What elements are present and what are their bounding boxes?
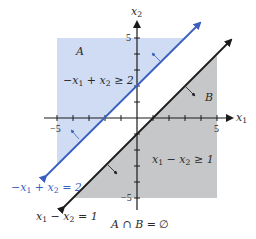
line-b-equation: x1 − x2 = 1 <box>36 211 98 224</box>
x-axis-label: x1 <box>236 112 247 125</box>
line-a-equation: −x1 + x2 = 2 <box>11 182 82 195</box>
y-axis-label: x2 <box>131 6 142 19</box>
x-tick-label-neg5: −5 <box>50 124 61 134</box>
y-tick-label-5: 5 <box>126 33 131 43</box>
inequality-b-label: x1 − x2 ≥ 1 <box>152 154 214 167</box>
region-a-label: A <box>76 46 84 57</box>
caption-intersection-empty: A ∩ B = ∅ <box>111 219 169 230</box>
region-b-label: B <box>205 92 213 103</box>
inequality-a-label: −x1 + x2 ≥ 2 <box>63 75 134 88</box>
y-tick-label-neg5: −5 <box>121 193 132 203</box>
x-tick-label-5: 5 <box>214 124 219 134</box>
